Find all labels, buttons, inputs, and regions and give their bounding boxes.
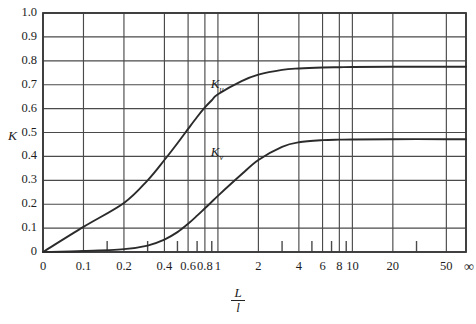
tick-mark-layer bbox=[107, 241, 416, 252]
y-tick-label: 0.1 bbox=[0, 220, 37, 235]
x-tick-label: 1 bbox=[198, 259, 238, 274]
y-tick-label: 0.8 bbox=[0, 53, 37, 68]
y-tick-label: 0.3 bbox=[0, 172, 37, 187]
x-tick-label: ∞ bbox=[449, 259, 476, 275]
x-tick-label: 0.1 bbox=[63, 259, 103, 274]
y-tick-label: 1.0 bbox=[0, 5, 37, 20]
y-tick-label: 0.6 bbox=[0, 101, 37, 116]
x-axis-title: L l bbox=[0, 286, 476, 316]
grid-layer bbox=[43, 13, 466, 252]
curve-label-kv: Kv bbox=[211, 144, 223, 162]
x-axis-denominator: l bbox=[231, 300, 244, 315]
curve-k-u bbox=[43, 67, 466, 252]
x-axis-fraction: L l bbox=[231, 286, 244, 315]
x-tick-label: 0.2 bbox=[104, 259, 144, 274]
chart-figure: 00.10.20.30.40.50.60.70.80.91.0 00.10.20… bbox=[0, 0, 476, 324]
x-tick-label: 10 bbox=[332, 259, 372, 274]
curve-label-ku: Ku bbox=[211, 76, 224, 94]
x-tick-label: 2 bbox=[238, 259, 278, 274]
y-axis-title: K bbox=[8, 128, 17, 144]
x-tick-label: 0 bbox=[23, 259, 63, 274]
x-tick-label: 20 bbox=[373, 259, 413, 274]
chart-canvas bbox=[0, 0, 476, 324]
y-tick-label: 0.7 bbox=[0, 77, 37, 92]
y-tick-label: 0.2 bbox=[0, 196, 37, 211]
curve-layer bbox=[43, 67, 466, 252]
y-tick-label: 0.9 bbox=[0, 29, 37, 44]
y-tick-label: 0.5 bbox=[0, 125, 37, 140]
x-axis-numerator: L bbox=[231, 286, 244, 300]
y-tick-label: 0.4 bbox=[0, 148, 37, 163]
y-tick-label: 0 bbox=[0, 244, 37, 259]
